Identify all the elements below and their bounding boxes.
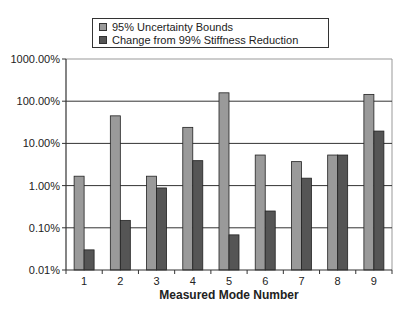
x-tick-label: 3 xyxy=(153,275,159,287)
bar xyxy=(255,155,265,270)
y-tick-label: 0.01% xyxy=(29,264,60,276)
x-tick-label: 6 xyxy=(262,275,268,287)
bar xyxy=(110,116,120,270)
bar xyxy=(193,161,203,270)
y-tick-label: 10.00% xyxy=(23,137,61,149)
bar xyxy=(74,176,84,270)
y-tick-label: 0.10% xyxy=(29,222,60,234)
bar xyxy=(219,93,229,270)
x-tick-label: 1 xyxy=(81,275,87,287)
y-axis-labels: 1000.00%100.00%10.00%1.00%0.10%0.01% xyxy=(10,53,60,276)
x-tick-label: 5 xyxy=(226,275,232,287)
bar xyxy=(364,94,374,270)
bar xyxy=(374,131,384,270)
bars xyxy=(74,93,384,270)
y-tick-label: 100.00% xyxy=(17,95,61,107)
y-tick-label: 1.00% xyxy=(29,180,60,192)
bar xyxy=(328,155,338,270)
x-tick-label: 4 xyxy=(190,275,196,287)
bar xyxy=(84,250,94,270)
bar xyxy=(120,220,130,270)
y-tick-label: 1000.00% xyxy=(10,53,60,65)
bar xyxy=(338,155,348,270)
x-axis-labels: 123456789 xyxy=(81,275,377,287)
bar xyxy=(301,178,311,270)
bar xyxy=(291,162,301,270)
bar xyxy=(183,127,193,270)
bar xyxy=(147,176,157,270)
x-axis-title: Measured Mode Number xyxy=(159,288,299,302)
x-tick-label: 2 xyxy=(117,275,123,287)
x-tick-label: 7 xyxy=(298,275,304,287)
x-tick-label: 8 xyxy=(335,275,341,287)
bar xyxy=(229,235,239,270)
x-tick-label: 9 xyxy=(371,275,377,287)
bar xyxy=(265,211,275,270)
bar-chart: 1000.00%100.00%10.00%1.00%0.10%0.01% 123… xyxy=(0,0,405,314)
bar xyxy=(157,188,167,270)
